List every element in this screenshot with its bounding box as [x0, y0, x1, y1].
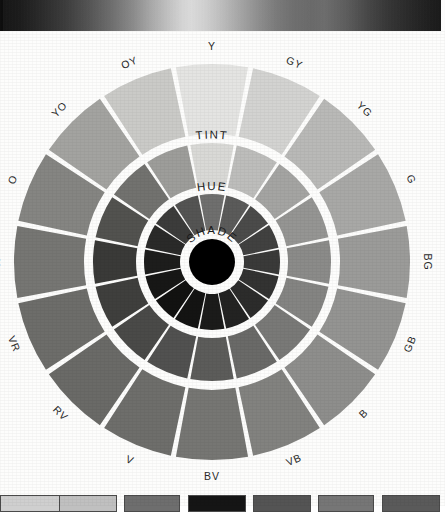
hue-label-yo: YO	[49, 99, 69, 119]
hue-label-bg: BG	[422, 254, 434, 271]
bottom-swatch-2	[59, 495, 117, 512]
hue-label-r: R	[0, 258, 2, 266]
hue-label-o: O	[5, 173, 20, 186]
hue-label-yg: YG	[355, 99, 375, 119]
bottom-swatch-3	[124, 495, 180, 512]
sector-tint-bg	[338, 226, 410, 298]
band-right-edge	[441, 0, 445, 31]
hue-label-g: G	[404, 173, 419, 186]
sector-hue-bg	[287, 240, 331, 283]
sector-hue-bv	[190, 337, 233, 381]
sector-hue-r	[93, 240, 137, 283]
center-black-disc	[189, 239, 235, 285]
grayscale-gradient-band	[0, 0, 445, 31]
ring-label-tint: TINT	[195, 128, 229, 141]
bottom-swatch-4	[188, 495, 246, 512]
bottom-swatch-6	[318, 495, 374, 512]
hue-label-b: B	[356, 406, 370, 420]
hue-label-v: V	[124, 452, 136, 466]
sector-tint-bv	[176, 388, 248, 460]
color-wheel-svg: TINTHUESHADE YGYYGGBGGBBVBBVVRVVRROYOOY	[0, 32, 445, 480]
hue-label-vr: VR	[6, 334, 23, 354]
sector-tint-r	[14, 226, 86, 298]
ring-label-hue: HUE	[196, 180, 228, 193]
hue-label-gb: GB	[401, 334, 419, 354]
hue-label-oy: OY	[119, 53, 139, 71]
hue-label-gy: GY	[285, 53, 305, 71]
bottom-swatch-7	[382, 495, 440, 512]
bottom-swatch-1	[0, 495, 62, 512]
sector-tint-y	[176, 64, 248, 136]
hue-label-vb: VB	[284, 451, 303, 468]
color-wheel: TINTHUESHADE YGYYGGBGGBBVBBVVRVVRROYOOY	[0, 32, 445, 480]
hue-label-rv: RV	[51, 403, 71, 423]
hue-label-y: Y	[208, 40, 216, 52]
bottom-swatch-5	[253, 495, 311, 512]
bottom-swatch-strip	[0, 486, 445, 506]
band-left-edge	[0, 0, 3, 31]
hue-label-bv: BV	[204, 470, 220, 480]
